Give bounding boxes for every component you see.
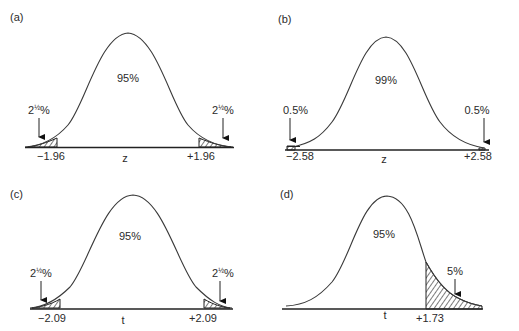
t-curve: [30, 195, 232, 308]
right-critical-value: +2.09: [189, 312, 217, 324]
center-percentage: 95%: [119, 230, 141, 242]
right-critical-value: +2.58: [464, 150, 492, 162]
normal-curve: [293, 37, 484, 148]
center-percentage: 95%: [373, 228, 395, 240]
panel-c: (c) 95% 2½% 2½% −2.09 t +2.09: [10, 188, 234, 326]
distribution-figure: (a) 95% 2½% 2½% −1.96 z +1.96 (b) 99% 0.…: [0, 0, 519, 331]
right-tail-label: 0.5%: [464, 104, 489, 116]
axis-label: t: [383, 309, 386, 321]
panel-label: (b): [278, 13, 291, 25]
normal-curve: [25, 33, 233, 147]
left-critical-value: −2.09: [38, 312, 66, 324]
panel-d: (d) 95% 5% t +1.73: [280, 188, 483, 324]
left-critical-value: −1.96: [37, 150, 65, 162]
right-tail-label: 2½%: [212, 104, 234, 116]
axis-label: z: [381, 153, 387, 165]
center-percentage: 99%: [375, 74, 397, 86]
left-tail-label: 2½%: [30, 267, 52, 279]
panel-label: (a): [10, 11, 23, 23]
axis-label: t: [121, 314, 124, 326]
center-percentage: 95%: [117, 72, 139, 84]
left-critical-value: −2.58: [286, 150, 314, 162]
panel-label: (c): [10, 188, 23, 200]
right-critical-value: +1.73: [416, 312, 444, 324]
t-curve: [286, 196, 482, 306]
panel-b: (b) 99% 0.5% 0.5% −2.58 z +2.58: [278, 13, 492, 165]
right-tail-region: [199, 138, 231, 147]
left-tail-label: 2½%: [28, 104, 50, 116]
right-tail-label: 5%: [447, 265, 463, 277]
right-critical-value: +1.96: [187, 150, 215, 162]
left-tail-label: 0.5%: [283, 104, 308, 116]
panel-label: (d): [280, 188, 293, 200]
axis-label: z: [122, 152, 128, 164]
panel-a: (a) 95% 2½% 2½% −1.96 z +1.96: [10, 11, 234, 164]
right-tail-label: 2½%: [212, 267, 234, 279]
